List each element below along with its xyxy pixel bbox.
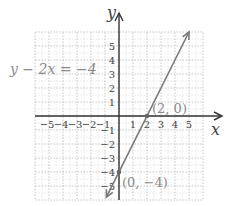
point-label: (0, −4) bbox=[122, 175, 168, 190]
x-axis-label: x bbox=[211, 120, 220, 139]
y-tick-label: −4 bbox=[100, 167, 115, 178]
x-tick-label: −5 bbox=[40, 119, 55, 130]
x-tick-label: 3 bbox=[158, 119, 164, 130]
x-tick-label: 5 bbox=[186, 119, 192, 130]
y-tick-label: 5 bbox=[109, 41, 115, 52]
equation-label: y − 2x = −4 bbox=[9, 61, 97, 77]
x-tick-label: −3 bbox=[68, 119, 83, 130]
point-marker bbox=[117, 170, 122, 175]
x-tick-label: −2 bbox=[82, 119, 97, 130]
x-tick-label: 4 bbox=[172, 119, 178, 130]
y-tick-label: −1 bbox=[100, 125, 115, 136]
x-tick-label: −4 bbox=[54, 119, 69, 130]
point-annotations: (2, 0)(0, −4) bbox=[117, 101, 187, 190]
y-tick-label: −2 bbox=[100, 139, 115, 150]
y-tick-label: 3 bbox=[109, 69, 115, 80]
y-tick-label: 1 bbox=[109, 97, 115, 108]
x-tick-label: 1 bbox=[130, 119, 136, 130]
y-tick-label: 2 bbox=[109, 83, 115, 94]
y-tick-label: 4 bbox=[109, 55, 115, 66]
y-tick-label: −3 bbox=[100, 153, 115, 164]
y-axis-label: y bbox=[106, 3, 117, 22]
point-label: (2, 0) bbox=[152, 101, 187, 116]
graph-canvas: −5−4−3−2−11234554321−1−2−3−4−5 (2, 0)(0,… bbox=[0, 0, 231, 206]
point-marker bbox=[145, 114, 150, 119]
